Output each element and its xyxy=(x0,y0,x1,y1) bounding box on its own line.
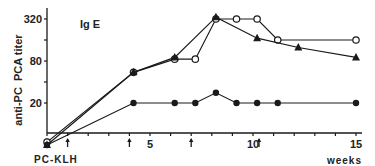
filled-circle-marker xyxy=(130,100,136,106)
igE-pca-titer-chart: 208032051015 Ig E anti-PC PCA titer week… xyxy=(0,0,375,166)
open-circle-marker xyxy=(233,16,239,22)
open-circle-marker xyxy=(353,37,359,43)
filled-circle-marker xyxy=(44,142,50,148)
filled-circle-marker xyxy=(213,90,219,96)
y-tick-label: 80 xyxy=(30,55,42,67)
filled-circle-marker xyxy=(172,100,178,106)
filled-circle-marker xyxy=(275,100,281,106)
x-tick-label: 10 xyxy=(247,138,259,150)
y-tick-label: 320 xyxy=(24,13,42,25)
open-circle-marker xyxy=(192,56,198,62)
triangle-marker xyxy=(212,13,220,21)
filled-circle-marker xyxy=(192,100,198,106)
series-line xyxy=(47,17,356,145)
y-axis-title: anti-PC PCA titer xyxy=(12,34,24,126)
immunization-label: PC-KLH xyxy=(34,154,78,165)
filled-circle-marker xyxy=(254,100,260,106)
open-circle-marker xyxy=(254,16,260,22)
x-tick-label: 5 xyxy=(147,138,153,150)
axes: 208032051015 xyxy=(24,8,362,150)
triangle-marker xyxy=(253,34,261,42)
x-axis-title: weeks xyxy=(326,155,362,166)
series-layer xyxy=(43,13,360,149)
series-line xyxy=(47,93,356,145)
series-line xyxy=(47,19,356,142)
filled-circle-marker xyxy=(233,100,239,106)
filled-circle-marker xyxy=(353,100,359,106)
arrowhead-icon xyxy=(65,138,69,142)
y-tick-label: 20 xyxy=(30,97,42,109)
arrowhead-icon xyxy=(127,138,131,142)
arrowhead-icon xyxy=(189,138,193,142)
x-tick-label: 15 xyxy=(350,138,362,150)
chart-title: Ig E xyxy=(80,18,100,30)
